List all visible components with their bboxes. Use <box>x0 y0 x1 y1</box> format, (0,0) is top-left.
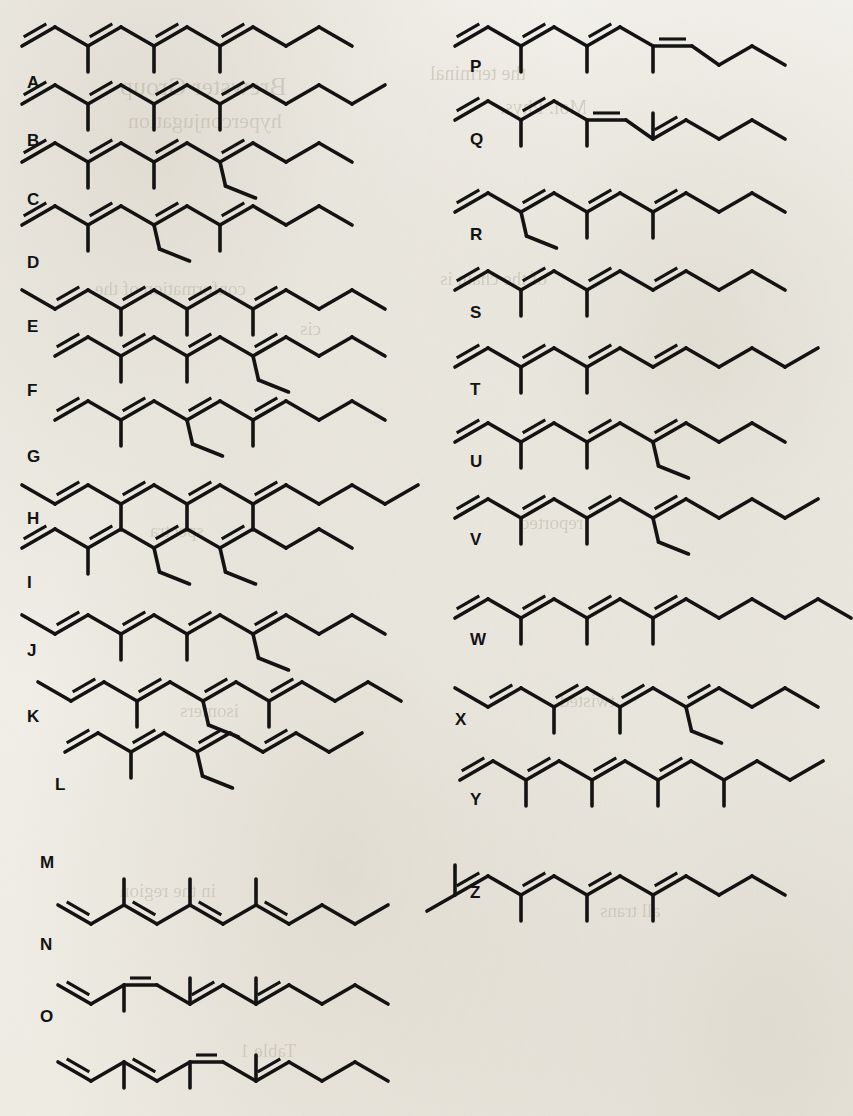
bond-single <box>554 876 587 895</box>
bond-single <box>692 46 719 65</box>
bond-single <box>253 206 286 225</box>
bond-single <box>355 905 388 924</box>
bond-single <box>170 682 203 701</box>
ethyl-branch-b <box>692 731 722 743</box>
bond-single <box>121 206 154 225</box>
bond-single <box>686 193 719 212</box>
bond-single <box>319 529 352 548</box>
bond-single <box>55 27 88 46</box>
structures-figure: ABCDEFGHIJKLMNOPQRSTUVWXYZ <box>0 0 853 1116</box>
structure-m: M <box>40 853 388 924</box>
bond-single <box>296 733 329 752</box>
bond-single <box>187 143 220 162</box>
bond-single <box>55 143 88 162</box>
bond-single <box>55 529 88 548</box>
structure-g: G <box>27 398 385 466</box>
bond-single <box>488 193 521 212</box>
bond-single <box>289 1062 322 1081</box>
bond-single <box>157 985 190 1004</box>
bond-single <box>352 485 385 504</box>
ethyl-branch-b <box>160 249 190 261</box>
ethyl-branch-a <box>154 225 160 249</box>
bond-single <box>88 401 121 420</box>
structure-v: V <box>455 496 818 554</box>
bond-single <box>686 499 719 518</box>
bond-single <box>719 193 752 212</box>
bond-single <box>818 599 851 618</box>
bond-single <box>154 290 187 309</box>
bond-single <box>790 761 823 780</box>
ethyl-branch-a <box>653 518 659 542</box>
bond-single <box>719 120 752 139</box>
structure-label-o: O <box>40 1007 53 1026</box>
bond-single <box>653 688 686 707</box>
ethyl-branch-b <box>226 186 256 198</box>
bond-single <box>223 1062 256 1081</box>
bond-single <box>352 615 385 634</box>
bond-single <box>220 290 253 309</box>
bond-single <box>488 876 521 895</box>
bond-single <box>785 499 818 518</box>
structure-t: T <box>455 345 818 399</box>
bond-single <box>352 337 385 356</box>
bond-single <box>319 85 352 104</box>
bond-single <box>286 290 319 309</box>
bond-single <box>752 599 785 618</box>
bond-single <box>319 206 352 225</box>
bond-single <box>286 85 319 104</box>
bond-single <box>488 499 521 518</box>
bond-single <box>752 688 785 707</box>
bond-single <box>187 206 220 225</box>
structure-i: I <box>22 526 352 592</box>
bond-single <box>220 337 253 356</box>
structure-n: N <box>40 935 388 1011</box>
ethyl-branch-a <box>197 752 203 776</box>
bond-single <box>223 985 256 1004</box>
bond-single <box>121 529 154 548</box>
structure-label-x: X <box>455 710 467 729</box>
bond-single <box>319 27 352 46</box>
bond-single <box>752 120 785 139</box>
bond-single <box>220 485 253 504</box>
bond-single <box>289 985 322 1004</box>
ethyl-branch-b <box>259 658 289 670</box>
bond-single <box>521 688 554 707</box>
bond-single <box>22 290 55 309</box>
bond-single <box>319 337 352 356</box>
bond-single <box>319 143 352 162</box>
bond-single <box>752 348 785 367</box>
bond-single <box>286 401 319 420</box>
structure-c: C <box>22 140 352 209</box>
bond-single <box>554 423 587 442</box>
ethyl-branch-b <box>203 776 233 788</box>
bond-single <box>719 499 752 518</box>
bond-single <box>253 529 286 548</box>
bond-single <box>322 985 355 1004</box>
ethyl-branch-b <box>259 380 289 392</box>
ethyl-branch-a <box>220 548 226 572</box>
bond-single <box>355 985 388 1004</box>
structure-label-h: H <box>27 509 39 528</box>
bond-single <box>554 271 587 290</box>
bond-single <box>620 348 653 367</box>
bond-single <box>554 27 587 46</box>
bond-single <box>752 423 785 442</box>
bond-single <box>554 193 587 212</box>
bond-single <box>91 985 124 1004</box>
structure-label-u: U <box>470 452 482 471</box>
bond-single <box>154 337 187 356</box>
bond-single <box>286 529 319 548</box>
structure-label-e: E <box>27 317 38 336</box>
structure-a: A <box>22 24 352 92</box>
bond-single <box>164 733 197 752</box>
bond-single <box>154 401 187 420</box>
structure-label-q: Q <box>470 130 483 149</box>
ethyl-branch-b <box>659 542 689 554</box>
ethyl-branch-a <box>154 548 160 572</box>
bond-single <box>686 120 719 139</box>
bond-single <box>686 271 719 290</box>
bond-single <box>286 485 319 504</box>
ethyl-branch-a <box>187 420 193 444</box>
bond-single <box>752 46 785 65</box>
structure-label-d: D <box>27 253 39 272</box>
